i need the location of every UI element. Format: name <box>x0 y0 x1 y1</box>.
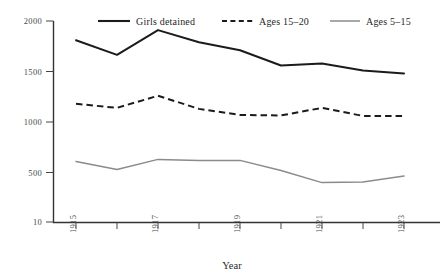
legend-label-ages-5-15: Ages 5–15 <box>366 16 411 27</box>
y-axis-tick-marks <box>46 21 54 222</box>
x-axis-title: Year <box>222 260 242 271</box>
y-axis-tick-labels: 10500100015002000 <box>24 16 42 227</box>
x-tick-label: 1917 <box>150 215 160 233</box>
chart-canvas: Girls detained Ages 15–20 Ages 5–15 1050… <box>0 0 446 276</box>
legend-item-girls-detained: Girls detained <box>98 16 195 27</box>
x-tick-label: 1923 <box>396 215 406 233</box>
y-tick-label: 1000 <box>24 117 42 127</box>
y-tick-label: 10 <box>33 217 42 227</box>
legend-label-ages-15-20: Ages 15–20 <box>259 16 309 27</box>
legend-item-ages-15-20: Ages 15–20 <box>222 16 309 27</box>
x-tick-label: 1921 <box>314 215 324 233</box>
x-tick-label: 1919 <box>232 215 242 233</box>
y-tick-label: 500 <box>28 168 42 178</box>
legend-label-girls-detained: Girls detained <box>136 16 195 27</box>
chart-legend: Girls detained Ages 15–20 Ages 5–15 <box>98 16 411 27</box>
series-line-ages-15-20 <box>76 96 404 116</box>
legend-item-ages-5-15: Ages 5–15 <box>330 16 411 27</box>
series-line-girls-detained <box>76 30 404 73</box>
x-tick-label: 1915 <box>68 215 78 233</box>
chart-series-group <box>76 30 404 183</box>
y-tick-label: 2000 <box>24 16 42 26</box>
axis-spine <box>54 21 441 223</box>
line-chart-figure: Girls detained Ages 15–20 Ages 5–15 1050… <box>0 0 446 276</box>
y-tick-label: 1500 <box>24 67 42 77</box>
x-axis-tick-labels: 19151917191919211923 <box>68 215 406 233</box>
series-line-ages-5-15 <box>76 159 404 182</box>
